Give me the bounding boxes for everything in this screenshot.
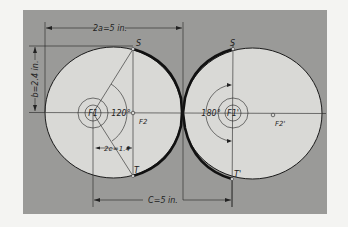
dim-b-label: b=2.4 in. <box>31 61 40 98</box>
left-angle-label: 120° <box>111 109 130 118</box>
dim-2a-label: 2a=5 in. <box>93 24 127 33</box>
left-focus-f1-label: F1 <box>88 109 98 118</box>
dim-2e-label: 2e=1.4 <box>104 145 130 153</box>
right-angle-label: 180° <box>201 109 220 118</box>
right-focus-f2-point <box>271 113 275 117</box>
left-point-s-label: S <box>136 39 141 48</box>
elliptical-gears-diagram: 2a=5 in. b=2.4 in. C=5 in. F1 120° F2 S … <box>0 0 348 227</box>
right-focus-f1-label: F1' <box>227 109 239 118</box>
right-focus-f2-label: F2' <box>275 120 285 128</box>
right-point-s-label: S <box>230 39 235 48</box>
right-point-t-label: T' <box>234 170 241 179</box>
left-point-s <box>132 48 135 51</box>
left-focus-f2-label: F2 <box>139 118 148 126</box>
left-focus-f2-point <box>131 111 135 115</box>
dim-c-label: C=5 in. <box>148 196 178 205</box>
